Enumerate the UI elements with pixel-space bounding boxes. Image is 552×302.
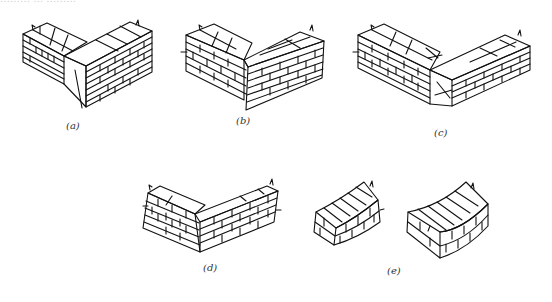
panel-b-drawing [181,24,324,110]
panel-label-c: (c) [434,127,447,138]
panel-c-drawing [353,24,530,106]
brick-corner-figures [0,0,552,302]
panel-a-drawing [23,20,152,108]
panel-d-drawing [143,179,281,252]
panel-label-d: (d) [203,262,217,273]
panel-e-drawing [314,181,488,258]
panel-label-a: (a) [66,120,80,131]
panel-label-e: (e) [387,265,401,276]
panel-label-b: (b) [236,115,250,126]
